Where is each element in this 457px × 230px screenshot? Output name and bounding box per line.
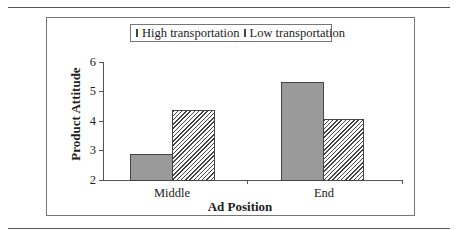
bottom-rule xyxy=(8,228,450,229)
y-tick-label: 5 xyxy=(86,85,96,97)
legend-swatch-high xyxy=(136,29,138,37)
y-tick-label: 6 xyxy=(86,56,96,68)
legend-swatch-low xyxy=(244,29,246,37)
bar-end-high xyxy=(281,82,324,181)
y-tick xyxy=(99,150,103,151)
y-axis xyxy=(103,62,104,180)
y-tick-label: 4 xyxy=(86,115,96,127)
legend: High transportation Low transportation xyxy=(130,24,332,42)
x-tick xyxy=(247,180,248,184)
y-tick-label: 3 xyxy=(86,144,96,156)
bar-middle-high xyxy=(130,154,173,181)
bar-end-low xyxy=(323,119,364,181)
x-tick xyxy=(402,180,403,184)
bar-middle-low xyxy=(172,110,215,181)
y-axis-title: Product Attitude xyxy=(68,44,84,184)
top-rule xyxy=(8,7,450,8)
x-axis-title: Ad Position xyxy=(180,199,300,215)
y-tick xyxy=(99,121,103,122)
y-tick-label: 2 xyxy=(86,174,96,186)
y-tick xyxy=(99,91,103,92)
y-tick xyxy=(99,180,103,181)
legend-label-low: Low transportation xyxy=(250,26,345,41)
legend-label-high: High transportation xyxy=(142,26,240,41)
y-tick xyxy=(99,62,103,63)
